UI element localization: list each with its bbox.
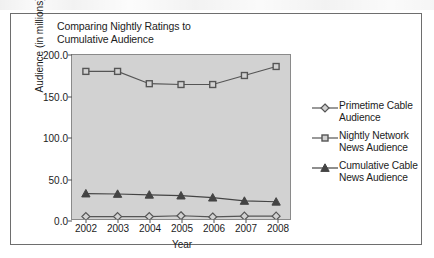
x-tick-label: 2003	[107, 223, 129, 234]
x-tick-label: 2007	[235, 223, 257, 234]
x-tick-label: 2006	[203, 223, 225, 234]
x-tick-mark	[246, 219, 247, 223]
legend-label: Primetime CableAudience	[339, 100, 413, 124]
data-point-marker	[115, 68, 121, 74]
legend-label-line2: News Audience	[339, 172, 418, 184]
data-point-marker	[272, 212, 280, 219]
legend-label-line1: Nightly Network	[339, 130, 409, 142]
legend-label-line1: Primetime Cable	[339, 100, 413, 112]
x-tick-mark	[150, 219, 151, 223]
x-tick-mark	[214, 219, 215, 223]
x-tick-label: 2004	[139, 223, 161, 234]
legend-marker-diamond-hollow	[311, 101, 339, 115]
data-point-marker	[83, 68, 89, 74]
x-tick-label: 2002	[75, 223, 97, 234]
x-tick-mark	[278, 219, 279, 223]
legend-item: Nightly NetworkNews Audience	[311, 130, 434, 154]
data-point-marker	[145, 213, 153, 219]
legend-label-line2: Audience	[339, 112, 413, 124]
data-point-marker	[114, 213, 122, 219]
legend-label: Nightly NetworkNews Audience	[339, 130, 409, 154]
series-plot	[72, 55, 290, 219]
scan-artifact-band	[0, 0, 434, 10]
data-point-marker	[209, 213, 217, 219]
legend-label-line2: News Audience	[339, 142, 409, 154]
data-point-marker	[146, 81, 152, 87]
chart-title-line2: Cumulative Audience	[57, 33, 287, 46]
legend-marker-square-hollow	[311, 131, 339, 145]
data-point-marker	[240, 212, 248, 219]
y-tick-label: 50.0	[49, 174, 68, 185]
x-tick-label: 2008	[267, 223, 289, 234]
legend-item: Cumulative CableNews Audience	[311, 160, 434, 184]
legend-marker-triangle-filled	[311, 161, 339, 175]
y-tick-mark	[68, 221, 72, 222]
chart-title: Comparing Nightly Ratings to Cumulative …	[57, 20, 287, 46]
data-point-marker	[178, 82, 184, 88]
data-point-marker	[273, 64, 279, 70]
legend-label-line1: Cumulative Cable	[339, 160, 418, 172]
chart-title-line1: Comparing Nightly Ratings to	[57, 20, 287, 33]
chart-legend: Primetime CableAudienceNightly NetworkNe…	[311, 100, 434, 190]
x-axis-label: Year	[72, 239, 292, 250]
plot-area: Audience (in millions) 0.050.0100.0150.0…	[71, 54, 291, 220]
y-tick-label: 200.0	[43, 50, 68, 61]
x-tick-mark	[182, 219, 183, 223]
legend-item: Primetime CableAudience	[311, 100, 434, 124]
x-tick-mark	[118, 219, 119, 223]
data-point-marker	[177, 212, 185, 219]
figure-frame: Comparing Nightly Ratings to Cumulative …	[10, 13, 422, 245]
data-point-marker	[241, 73, 247, 79]
y-tick-label: 150.0	[43, 91, 68, 102]
data-point-marker	[82, 213, 90, 219]
x-tick-mark	[86, 219, 87, 223]
x-tick-label: 2005	[171, 223, 193, 234]
data-point-marker	[210, 82, 216, 88]
y-tick-label: 100.0	[43, 133, 68, 144]
y-tick-label: 0.0	[54, 216, 68, 227]
legend-label: Cumulative CableNews Audience	[339, 160, 418, 184]
